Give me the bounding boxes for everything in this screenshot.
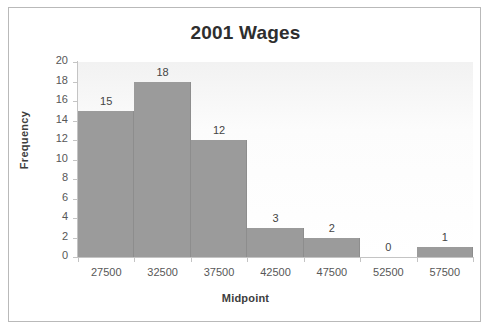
y-tick-label: 8 [62, 171, 68, 183]
y-tick-label: 2 [62, 230, 68, 242]
bar [304, 238, 360, 258]
x-tick-mark [247, 258, 248, 262]
y-tick-label: 10 [56, 152, 68, 164]
bar-value-label: 1 [417, 231, 473, 243]
bar-value-label: 18 [134, 66, 190, 78]
y-tick-label: 20 [56, 54, 68, 66]
x-tick-label: 27500 [78, 266, 134, 278]
x-tick-mark [360, 258, 361, 262]
bar [417, 247, 473, 257]
chart-frame: 2001 Wages Frequency 02468101214161820 1… [8, 7, 481, 322]
bar-value-label: 0 [360, 241, 416, 253]
x-tick-label: 57500 [417, 266, 473, 278]
x-tick-mark [134, 258, 135, 262]
x-tick-mark [191, 258, 192, 262]
x-axis-title: Midpoint [9, 292, 482, 304]
x-tick-label: 42500 [247, 266, 303, 278]
bar [191, 140, 247, 257]
x-tick-mark [304, 258, 305, 262]
y-tick-label: 4 [62, 210, 68, 222]
y-tick-label: 16 [56, 93, 68, 105]
x-axis-line [77, 257, 474, 258]
x-tick-mark [417, 258, 418, 262]
bar-value-label: 12 [191, 124, 247, 136]
bar-value-label: 3 [247, 212, 303, 224]
y-tick-label: 14 [56, 113, 68, 125]
y-tick-label: 0 [62, 249, 68, 261]
y-tick-label: 12 [56, 132, 68, 144]
bar [134, 82, 190, 258]
bar [78, 111, 134, 257]
x-tick-label: 37500 [191, 266, 247, 278]
bar-value-label: 2 [304, 222, 360, 234]
x-tick-label: 52500 [360, 266, 416, 278]
bar [247, 228, 303, 257]
x-tick-mark [78, 258, 79, 262]
y-tick-label: 18 [56, 74, 68, 86]
bar-value-label: 15 [78, 95, 134, 107]
x-tick-label: 47500 [304, 266, 360, 278]
y-axis-title: Frequency [18, 95, 30, 185]
chart-title: 2001 Wages [9, 22, 482, 44]
x-tick-mark [473, 258, 474, 262]
x-tick-label: 32500 [134, 266, 190, 278]
y-tick-label: 6 [62, 191, 68, 203]
plot-area [78, 62, 473, 257]
